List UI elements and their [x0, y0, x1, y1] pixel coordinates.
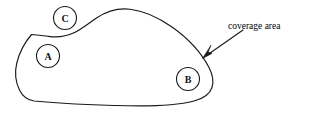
node-b-label: B [185, 74, 192, 85]
coverage-area-callout-text: coverage area [228, 21, 280, 31]
node-b: B [177, 68, 200, 91]
node-a: A [37, 45, 60, 68]
node-a-label: A [44, 51, 52, 62]
callout-leader-line [207, 30, 244, 56]
node-c: C [54, 7, 77, 30]
coverage-area-callout-arrow [203, 30, 244, 59]
node-c-label: C [61, 13, 68, 24]
coverage-area-figure: C A B coverage area [0, 0, 314, 118]
callout-arrow-head [203, 45, 213, 58]
coverage-area-callout-label: coverage area [228, 16, 280, 32]
